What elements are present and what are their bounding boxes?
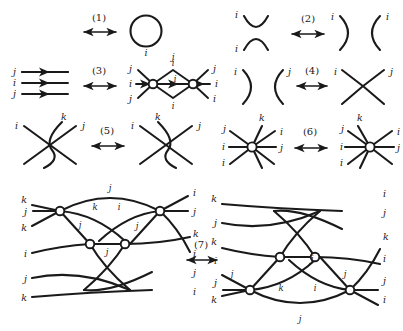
relation-7-left-inner-j4: j <box>104 247 109 257</box>
relation-2-left-label-bottom: i <box>235 43 238 54</box>
relation-6-right-label-k: k <box>357 112 363 123</box>
relation-4: i j (4) i j <box>234 65 393 104</box>
relation-7-right-inner-j-1: j <box>309 254 314 264</box>
relations-figure: (1) i i i (2) i i <box>0 0 403 331</box>
relation-3-right-label-j-bot: j <box>127 93 132 104</box>
relation-6-right-label-i2: i <box>397 126 400 137</box>
relation-7-right-rlbl-6: i <box>383 294 386 305</box>
relation-7-left-inner-k: k <box>92 202 97 212</box>
relation-7-right-inner-j-2: j <box>229 269 234 279</box>
relation-2-left: i i <box>235 9 268 54</box>
relation-1: (1) i <box>84 12 162 58</box>
relation-7-right-lbl-4: i <box>214 255 217 266</box>
relation-6-right-label-j: j <box>339 123 344 134</box>
relation-7-left-vertex-b <box>156 207 165 216</box>
relation-7-right-rlbl-3: k <box>383 231 389 242</box>
relation-7-right-rlbl-1: i <box>383 188 386 199</box>
relation-3-right: j i j j i i i j i i <box>127 52 218 111</box>
relation-7-left-lbl-3: k <box>21 222 27 233</box>
relation-7-left-lbl-1: k <box>21 194 27 205</box>
relation-7: k j k i j k i j k i j i j k i j j j (7) <box>21 183 389 324</box>
relation-6-tag: (6) <box>303 126 317 137</box>
relation-6-right-label-i3: i <box>340 157 343 168</box>
relation-6: j k i i j i (6) j k i i j i <box>221 112 400 168</box>
relation-7-right-inner-k: k <box>278 283 283 293</box>
relation-6-left: j k i i j i <box>221 112 283 168</box>
relation-3-left: j i j <box>11 66 68 99</box>
relation-7-tag: (7) <box>194 239 208 250</box>
relation-5-left-label-k: k <box>61 111 67 122</box>
relation-7-left-inner-j-top: j <box>107 183 112 193</box>
relation-7-left-rlbl-3: k <box>193 228 199 239</box>
relation-6-right-label-i: i <box>340 141 343 152</box>
relation-3-right-label-j-topright: j <box>211 63 216 74</box>
relation-3-right-label-i-botright: i <box>213 93 216 104</box>
relation-7-right-vertex-b <box>346 286 355 295</box>
relation-1-tag: (1) <box>92 12 106 23</box>
relation-2-right-label-right: i <box>386 11 389 22</box>
relation-2-tag: (2) <box>301 13 315 24</box>
relation-5-tag: (5) <box>100 125 114 136</box>
relation-5-left: i k j <box>15 111 85 168</box>
relation-4-right-label-j: j <box>388 66 393 77</box>
relation-7-right <box>222 204 380 305</box>
relation-7-right-lbl-2: j <box>212 217 217 228</box>
relation-7-right-inner-j-3: j <box>342 269 347 279</box>
relation-7-left-lbl-6: k <box>21 292 27 303</box>
relation-3-tag: (3) <box>92 65 106 76</box>
relation-5-right-label-j: j <box>196 120 201 131</box>
relation-7-right-lbl-5: j <box>212 277 217 288</box>
relation-6-left-label-i2: i <box>280 126 283 137</box>
relation-3: j i j (3) j i j <box>11 52 218 111</box>
relation-4-tag: (4) <box>305 65 319 76</box>
relation-7-left-inner-j3: j <box>134 221 139 231</box>
relation-7-left-lbl-2: j <box>22 206 27 217</box>
relation-7-right-rlbl-4: i <box>383 253 386 264</box>
relation-4-right: i j <box>334 66 393 104</box>
relation-7-left-inner-j2: j <box>77 220 82 230</box>
relation-3-right-label-i-top: j <box>170 52 175 62</box>
relation-6-left-label-j: j <box>221 123 226 134</box>
relation-5-left-label-j: j <box>80 120 85 131</box>
relation-2-right-label-left: i <box>331 11 334 22</box>
relation-5-right-label-i: i <box>131 120 134 131</box>
relation-4-left-label-j: j <box>286 66 291 77</box>
relation-7-right-lbl-1: k <box>211 193 217 204</box>
relation-7-left-inner-i: i <box>118 202 121 212</box>
relation-6-left-label-i: i <box>222 141 225 152</box>
relation-7-left-lbl-4: i <box>24 248 27 259</box>
relation-7-left-vertex-c <box>86 240 95 249</box>
relations-svg: (1) i i i (2) i i <box>0 0 403 331</box>
relation-6-left-label-k: k <box>259 112 265 123</box>
relation-2-left-label-top: i <box>235 9 238 20</box>
relation-3-right-label-j-center: i <box>174 74 177 84</box>
relation-4-left: i j <box>234 66 291 104</box>
relation-7-left-rlbl-2: j <box>191 206 196 217</box>
relation-6-right-vertex <box>365 142 374 151</box>
relation-6-left-vertex <box>247 142 256 151</box>
relation-6-right-label-j2: j <box>395 142 400 153</box>
relation-3-vertex-left <box>149 80 158 89</box>
relation-3-left-label-2: i <box>13 77 16 88</box>
relation-7-right-lbl-3: k <box>211 236 217 247</box>
relation-1-label-i: i <box>144 47 147 58</box>
relation-7-right-vertex-c <box>276 253 285 262</box>
relation-7-left-vertex-a <box>56 207 65 216</box>
relation-3-right-label-i-mid: i <box>129 78 132 89</box>
relation-5-left-label-i: i <box>15 120 18 131</box>
relation-7-right-inner-i: i <box>314 283 317 293</box>
relation-3-right-label-j-top: j <box>127 63 132 74</box>
relation-4-left-label-i: i <box>234 66 237 77</box>
relation-7-right-vertex-a <box>246 286 255 295</box>
relation-7-left-rlbl-6: i <box>193 286 196 297</box>
relation-1-right-loop: i <box>131 16 162 59</box>
relation-5-right-label-k: k <box>155 111 161 122</box>
relation-2-right: i i <box>331 11 389 50</box>
relation-3-right-label-i-lower: i <box>172 101 175 111</box>
relation-7-left: k j k i j k i j k i j i j k i j j j <box>21 183 199 303</box>
relation-6-left-label-i3: i <box>222 157 225 168</box>
relation-6-left-label-j2: j <box>278 142 283 153</box>
relation-7-left-rlbl-5: j <box>191 267 196 278</box>
relation-7-left-vertex-d <box>121 240 130 249</box>
relation-3-left-label-3: j <box>11 88 16 99</box>
